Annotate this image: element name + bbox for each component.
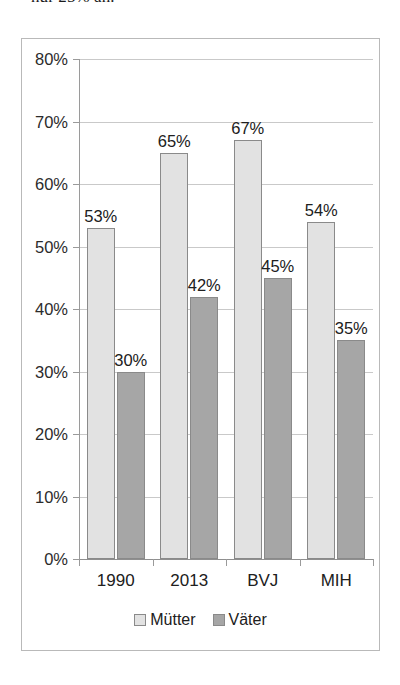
legend-entry-Mütter[interactable]: Mütter (134, 611, 195, 629)
bar-value-label: 67% (231, 119, 264, 138)
x-category-label-1990: 1990 (97, 571, 135, 591)
y-tick-label-30: 30% (35, 362, 68, 381)
x-tick (79, 559, 80, 566)
bar-MIH-Väter: 35% (337, 340, 365, 559)
x-category-label-2013: 2013 (170, 571, 208, 591)
y-tick-10 (73, 497, 79, 498)
y-tick-label-70: 70% (35, 112, 68, 131)
x-tick (226, 559, 227, 566)
bar-value-label: 42% (188, 276, 221, 295)
y-tick-80 (73, 59, 79, 60)
y-tick-20 (73, 434, 79, 435)
bar-value-label: 45% (261, 257, 294, 276)
bar-BVJ-Mütter: 67% (234, 140, 262, 559)
y-tick-label-80: 80% (35, 50, 68, 69)
bar-value-label: 35% (335, 319, 368, 338)
y-tick-label-20: 20% (35, 425, 68, 444)
bar-value-label: 53% (84, 207, 117, 226)
gridline-60 (79, 184, 373, 185)
y-tick-label-60: 60% (35, 175, 68, 194)
x-tick (300, 559, 301, 566)
clipped-paragraph-text: nur 25% an. (31, 0, 115, 7)
gridline-80 (79, 59, 373, 60)
x-category-label-MIH: MIH (321, 571, 352, 591)
legend-swatch-icon (134, 614, 146, 626)
bar-2013-Väter: 42% (190, 297, 218, 560)
bar-value-label: 54% (305, 201, 338, 220)
bar-1990-Mütter: 53% (87, 228, 115, 559)
bar-1990-Väter: 30% (117, 372, 145, 560)
bar-MIH-Mütter: 54% (307, 222, 335, 560)
plot-area: 80%70%60%50%40%30%20%10%0% 53%30%65%42%6… (79, 59, 373, 559)
y-tick-30 (73, 372, 79, 373)
bar-value-label: 65% (158, 132, 191, 151)
chart-figure-frame: 80%70%60%50%40%30%20%10%0% 53%30%65%42%6… (21, 38, 380, 651)
bar-BVJ-Väter: 45% (264, 278, 292, 559)
y-tick-40 (73, 309, 79, 310)
bar-2013-Mütter: 65% (160, 153, 188, 559)
x-category-label-BVJ: BVJ (247, 571, 278, 591)
y-axis-line (79, 59, 80, 559)
x-tick (373, 559, 374, 566)
y-tick-label-10: 10% (35, 487, 68, 506)
y-tick-60 (73, 184, 79, 185)
bar-value-label: 30% (114, 351, 147, 370)
legend-label: Mütter (150, 611, 195, 629)
y-tick-label-0: 0% (44, 550, 68, 569)
legend-label: Väter (229, 611, 267, 629)
y-tick-label-40: 40% (35, 300, 68, 319)
x-tick (153, 559, 154, 566)
y-tick-label-50: 50% (35, 237, 68, 256)
y-tick-70 (73, 122, 79, 123)
gridline-70 (79, 122, 373, 123)
chart-legend: MütterVäter (22, 611, 379, 629)
y-tick-50 (73, 247, 79, 248)
legend-entry-Väter[interactable]: Väter (213, 611, 267, 629)
legend-swatch-icon (213, 614, 225, 626)
